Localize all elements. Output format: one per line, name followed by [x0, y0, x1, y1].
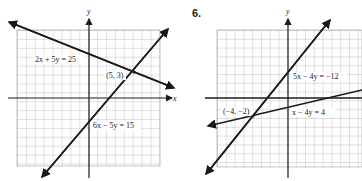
- x-axis-label: x: [172, 94, 177, 103]
- equation-label: x − 4y = 4: [292, 108, 325, 117]
- graph-right: 6. y 5x − 4y = −12 (−4, −2) x − 4y = 4: [192, 7, 362, 178]
- problem-number: 6.: [192, 7, 201, 19]
- equation-label: 2x + 5y = 25: [35, 55, 76, 64]
- y-axis-label: y: [285, 7, 290, 16]
- y-axis-label: y: [86, 7, 91, 16]
- intersection-label: (−4, −2): [223, 107, 250, 116]
- intersection-point: [132, 70, 135, 73]
- intersection-label: (5, 3): [106, 71, 124, 80]
- intersection-point: [251, 114, 254, 117]
- graph-left: x y 2x + 5y = 25 (5, 3) 6x − 5y = 15: [8, 7, 177, 178]
- equation-label: 6x − 5y = 15: [93, 121, 134, 130]
- figure: x y 2x + 5y = 25 (5, 3) 6x − 5y = 15 6. …: [0, 0, 362, 181]
- equation-label: 5x − 4y = −12: [293, 72, 339, 81]
